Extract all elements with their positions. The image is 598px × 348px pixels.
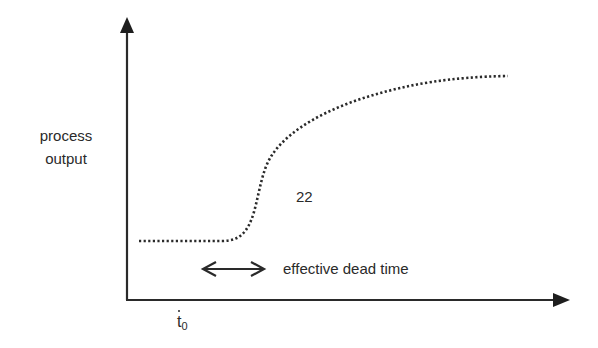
annotation-number: 22 — [296, 188, 313, 206]
y-axis-arrowhead-icon — [120, 17, 134, 33]
x-tick-subscript: 0 — [181, 320, 187, 332]
x-axis-arrowhead-icon — [553, 293, 570, 307]
y-axis-label: process output — [28, 124, 104, 170]
process-response-diagram — [0, 0, 598, 348]
y-axis-label-line2: output — [28, 147, 104, 170]
y-axis-label-line1: process — [28, 124, 104, 147]
dead-time-label: effective dead time — [283, 260, 409, 278]
process-output-curve — [139, 76, 508, 241]
x-tick-label-t0: t0 — [177, 313, 188, 335]
